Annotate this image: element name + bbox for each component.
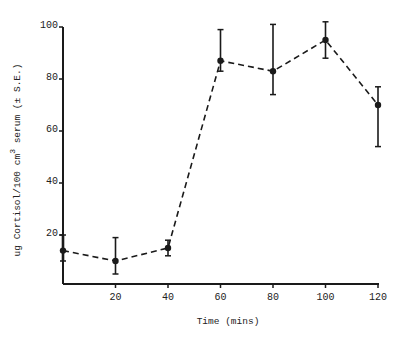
x-axis-title: Time (mins)	[197, 316, 260, 327]
y-tick-label: 20	[46, 228, 58, 239]
y-tick-label: 80	[46, 72, 58, 83]
data-point-marker	[270, 68, 276, 74]
x-tick-label: 20	[109, 292, 121, 303]
series-line	[63, 40, 378, 261]
data-point-marker	[322, 37, 328, 43]
data-point-marker	[217, 58, 223, 64]
axes: 2040608010020406080100120	[40, 20, 387, 303]
cortisol-line-chart: 2040608010020406080100120 Time (mins) ug…	[0, 0, 406, 339]
data-point-marker	[165, 245, 171, 251]
x-tick-label: 100	[316, 292, 334, 303]
x-tick-label: 40	[162, 292, 174, 303]
y-axis-title-rest: serum (± S.E.)	[12, 64, 23, 150]
y-axis-title: ug Cortisol/100 cm3 serum (± S.E.)	[8, 64, 23, 257]
y-tick-label: 60	[46, 124, 58, 135]
data-point-marker	[112, 258, 118, 264]
y-axis-title-main: ug Cortisol/100 cm	[12, 154, 23, 257]
x-tick-label: 80	[267, 292, 279, 303]
data-point-marker	[60, 247, 66, 253]
data-point-marker	[375, 102, 381, 108]
y-tick-label: 40	[46, 176, 58, 187]
x-tick-label: 60	[214, 292, 226, 303]
y-tick-label: 100	[40, 20, 58, 31]
x-tick-label: 120	[369, 292, 387, 303]
